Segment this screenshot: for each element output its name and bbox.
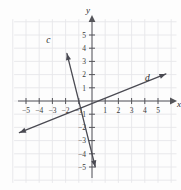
y-tick-label: 3	[82, 57, 86, 66]
x-tick-label: 4	[143, 106, 147, 115]
graph-canvas: −5−4−3−2−112345−5−4−3−2−112345 cd x y	[0, 0, 181, 190]
x-tick-label: −3	[48, 106, 56, 115]
y-tick-label: 5	[82, 31, 86, 40]
y-tick-label: −4	[78, 150, 86, 159]
y-axis-label: y	[85, 5, 90, 15]
x-tick-label: 3	[130, 106, 134, 115]
x-tick-label: −4	[35, 106, 43, 115]
x-tick-label: 2	[117, 106, 121, 115]
line-label-d: d	[145, 73, 150, 83]
y-tick-label: 4	[82, 44, 86, 53]
y-tick-label: −3	[78, 136, 86, 145]
y-tick-label: 1	[82, 84, 86, 93]
plot-background	[0, 0, 181, 190]
x-tick-label: 1	[103, 106, 107, 115]
coordinate-graph: −5−4−3−2−112345−5−4−3−2−112345 cd x y	[0, 0, 181, 190]
y-tick-label: −5	[78, 163, 86, 172]
y-tick-label: 2	[82, 70, 86, 79]
x-tick-label: −5	[22, 106, 30, 115]
x-tick-label: 5	[156, 106, 160, 115]
x-axis-label: x	[176, 99, 181, 109]
